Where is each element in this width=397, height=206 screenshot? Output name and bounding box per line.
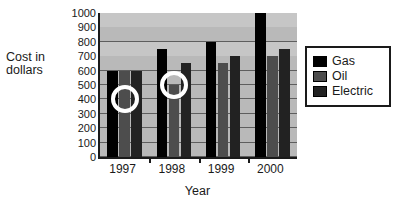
- x-axis-tick-labels: 1997199819992000: [98, 163, 297, 177]
- legend: GasOilElectric: [305, 46, 391, 107]
- y-tick-label: 1000: [72, 8, 96, 19]
- y-tick-label: 300: [78, 108, 96, 119]
- legend-swatch-icon: [313, 56, 327, 67]
- y-tick-label: 400: [78, 94, 96, 105]
- bar-gas-2000: [255, 13, 266, 157]
- bar-fill: [157, 49, 168, 157]
- legend-item-electric: Electric: [313, 85, 383, 98]
- y-tick-label: 600: [78, 65, 96, 76]
- legend-item-gas: Gas: [313, 55, 383, 68]
- bar-electric-1999: [230, 13, 241, 157]
- legend-swatch-icon: [313, 86, 327, 97]
- bar-fill: [131, 71, 142, 157]
- bar-oil-2000: [267, 13, 278, 157]
- y-tick-label: 900: [78, 22, 96, 33]
- x-tick-label: 2000: [257, 163, 284, 175]
- x-tick-label: 1997: [109, 163, 136, 175]
- legend-label: Gas: [332, 55, 355, 68]
- x-tick-label: 1999: [208, 163, 235, 175]
- legend-swatch-icon: [313, 71, 327, 82]
- bar-gas-1997: [107, 13, 118, 157]
- y-tick-label: 700: [78, 51, 96, 62]
- circle-1998-oil: [160, 71, 188, 99]
- y-tick-label: 200: [78, 123, 96, 134]
- bar-fill: [267, 56, 278, 157]
- bar-group: [255, 13, 290, 157]
- x-tick-label: 1998: [159, 163, 186, 175]
- bar-fill: [119, 71, 130, 157]
- bar-fill: [206, 42, 217, 157]
- x-axis-title: Year: [98, 184, 297, 198]
- y-tick-label: 0: [90, 152, 96, 163]
- bar-gas-1999: [206, 13, 217, 157]
- bar-fill: [255, 13, 266, 157]
- bar-group: [206, 13, 241, 157]
- y-tick-label: 100: [78, 137, 96, 148]
- bar-chart-figure: Cost in dollars 100090080070060050040030…: [0, 0, 397, 206]
- bar-fill: [230, 56, 241, 157]
- bar-fill: [279, 49, 290, 157]
- legend-label: Electric: [332, 85, 373, 98]
- plot-inner: [100, 13, 297, 157]
- bar-fill: [107, 71, 118, 157]
- y-tick-label: 500: [78, 80, 96, 91]
- bar-electric-2000: [279, 13, 290, 157]
- legend-label: Oil: [332, 70, 347, 83]
- legend-item-oil: Oil: [313, 70, 383, 83]
- bar-oil-1999: [218, 13, 229, 157]
- bar-fill: [218, 63, 229, 157]
- plot-area: [98, 13, 297, 159]
- circle-1997-oil: [111, 85, 139, 113]
- y-tick-label: 800: [78, 36, 96, 47]
- y-axis-tick-labels: 10009008007006005004003002001000: [60, 8, 96, 160]
- bar-electric-1997: [131, 13, 142, 157]
